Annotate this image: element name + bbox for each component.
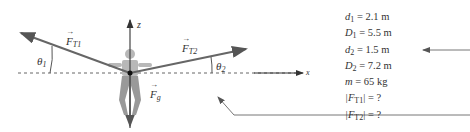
given-value: = 1.5 m: [354, 44, 389, 55]
force-t1-symbol: F: [66, 36, 73, 47]
given-d1: d1 = 2.1 m: [345, 10, 392, 26]
theta2-label: θ2: [216, 61, 225, 74]
given-value: = 7.2 m: [357, 60, 392, 71]
given-D2: D2 = 7.2 m: [345, 59, 392, 75]
given-value: | = ?: [363, 109, 381, 120]
center-point: [128, 71, 133, 76]
force-g-symbol: F: [150, 89, 157, 100]
given-symbol: D: [345, 27, 353, 38]
given-value: = 2.1 m: [354, 11, 389, 22]
force-t2-label: FT2: [182, 43, 197, 56]
given-D1: D1 = 5.5 m: [345, 26, 392, 42]
given-value: = 5.5 m: [357, 27, 392, 38]
given-subscript: T1: [354, 96, 363, 105]
theta2-subscript: 2: [221, 65, 225, 74]
force-t1-label: FT1: [66, 36, 81, 49]
force-t1-subscript: T1: [73, 40, 81, 49]
given-value: | = ?: [363, 92, 381, 103]
given-value: = 65 kg: [353, 76, 388, 87]
given-d2: d2 = 1.5 m: [345, 43, 392, 59]
given-symbol: D: [345, 60, 353, 71]
given-symbol: |F: [345, 92, 354, 103]
given-subscript: T2: [354, 113, 363, 122]
theta1-subscript: 1: [42, 60, 46, 69]
given-mass: m = 65 kg: [345, 75, 392, 91]
x-axis-label: x: [306, 69, 310, 77]
given-symbol: |F: [345, 109, 354, 120]
force-g-subscript: g: [157, 93, 161, 102]
force-g-label: Fg: [150, 89, 161, 102]
given-values-list: d1 = 2.1 m D1 = 5.5 m d2 = 1.5 m D2 = 7.…: [345, 10, 392, 124]
unknown-ft1: |FT1| = ?: [345, 91, 392, 107]
theta1-label: θ1: [37, 56, 46, 69]
free-body-diagram: [0, 0, 470, 132]
theta1-arc: [50, 46, 52, 73]
force-t2-symbol: F: [182, 43, 189, 54]
theta2-arc: [211, 57, 212, 73]
z-axis-label: z: [137, 20, 141, 30]
unknown-ft2: |FT2| = ?: [345, 108, 392, 124]
given-symbol: m: [345, 76, 353, 87]
force-t2-subscript: T2: [189, 47, 197, 56]
pointer-arrow-lower: [218, 97, 470, 115]
